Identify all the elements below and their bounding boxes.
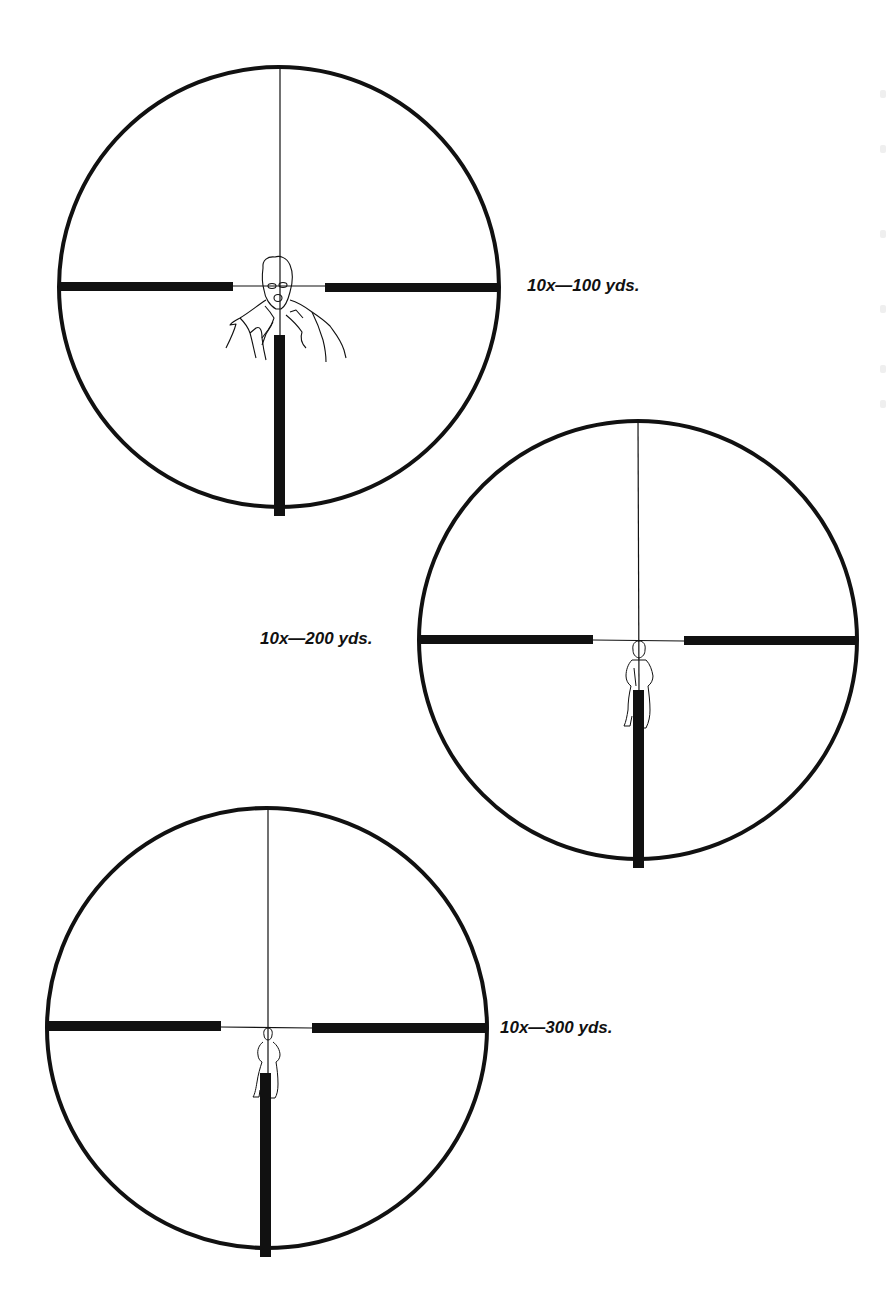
- scan-artifact: [880, 230, 886, 238]
- scan-artifact: [880, 400, 886, 408]
- scan-artifact: [880, 145, 886, 153]
- scope-reticle-figure: 10x—100 yds. 10x—200 yds. 10x—300 yds.: [0, 0, 888, 1310]
- reticle-300: [47, 808, 487, 1257]
- post-bottom: [260, 1073, 271, 1257]
- scan-artifact: [880, 90, 886, 98]
- post-left: [48, 1021, 221, 1031]
- post-right: [312, 1023, 486, 1033]
- scope-label-200-yds: 10x—200 yds.: [260, 630, 372, 647]
- scope-label-100-yds: 10x—100 yds.: [527, 277, 639, 294]
- scan-artifact: [880, 305, 886, 313]
- scope-view-300-yds: [0, 0, 888, 1310]
- scan-artifact: [880, 365, 886, 373]
- scope-label-300-yds: 10x—300 yds.: [500, 1019, 612, 1036]
